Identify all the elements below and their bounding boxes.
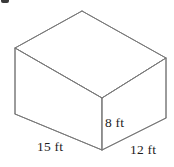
height-dimension-label: 8 ft bbox=[105, 116, 124, 130]
figure-container: 8 ft 15 ft 12 ft bbox=[0, 0, 174, 167]
width-dimension-label: 12 ft bbox=[130, 143, 156, 157]
length-dimension-label: 15 ft bbox=[37, 140, 63, 154]
